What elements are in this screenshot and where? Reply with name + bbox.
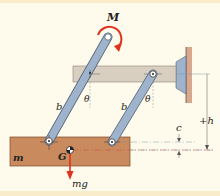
label-link-right: b [121, 101, 127, 112]
label-link-left: b [56, 101, 62, 112]
top-pin [105, 34, 111, 40]
label-height: +h [199, 115, 214, 126]
label-angle-right: θ [145, 94, 151, 104]
link-right [112, 74, 153, 142]
top-band [0, 0, 220, 3]
wall-mount [176, 56, 186, 94]
diagram-svg: M b θ b θ m G mg +h c [0, 0, 220, 196]
label-angle-left: θ [84, 94, 90, 104]
bottom-band [0, 191, 220, 196]
wall [186, 47, 192, 103]
label-weight: mg [72, 178, 88, 189]
label-mass: m [13, 152, 24, 163]
link-left [49, 37, 108, 141]
label-cg: G [58, 151, 67, 162]
mechanism-diagram: M b θ b θ m G mg +h c [0, 0, 220, 196]
label-moment: M [106, 11, 120, 24]
label-offset: c [176, 122, 182, 133]
